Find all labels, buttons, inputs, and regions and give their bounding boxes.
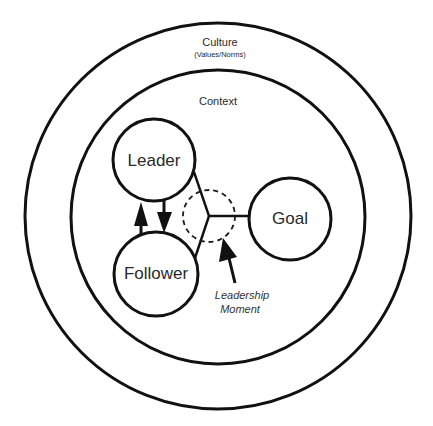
leadership-diagram: Culture (Values/Norms) Context Leader Fo… xyxy=(0,0,433,426)
arrow-up-icon xyxy=(134,202,148,236)
moment-label-line2: Moment xyxy=(220,303,261,315)
follower-node: Follower xyxy=(114,232,198,316)
leader-label: Leader xyxy=(128,151,181,170)
culture-sublabel: (Values/Norms) xyxy=(194,50,246,59)
culture-label: Culture xyxy=(202,36,237,48)
goal-node: Goal xyxy=(249,178,331,260)
follower-label: Follower xyxy=(124,264,189,283)
follower-connector xyxy=(195,216,209,258)
leadership-moment-label: Leadership Moment xyxy=(215,289,269,315)
arrow-down-icon xyxy=(157,200,172,233)
goal-label: Goal xyxy=(272,209,308,228)
moment-pointer-arrow-icon xyxy=(219,238,237,283)
context-label: Context xyxy=(199,95,237,107)
moment-label-line1: Leadership xyxy=(215,289,269,301)
connector-lines xyxy=(194,172,249,258)
leader-node: Leader xyxy=(113,119,195,201)
